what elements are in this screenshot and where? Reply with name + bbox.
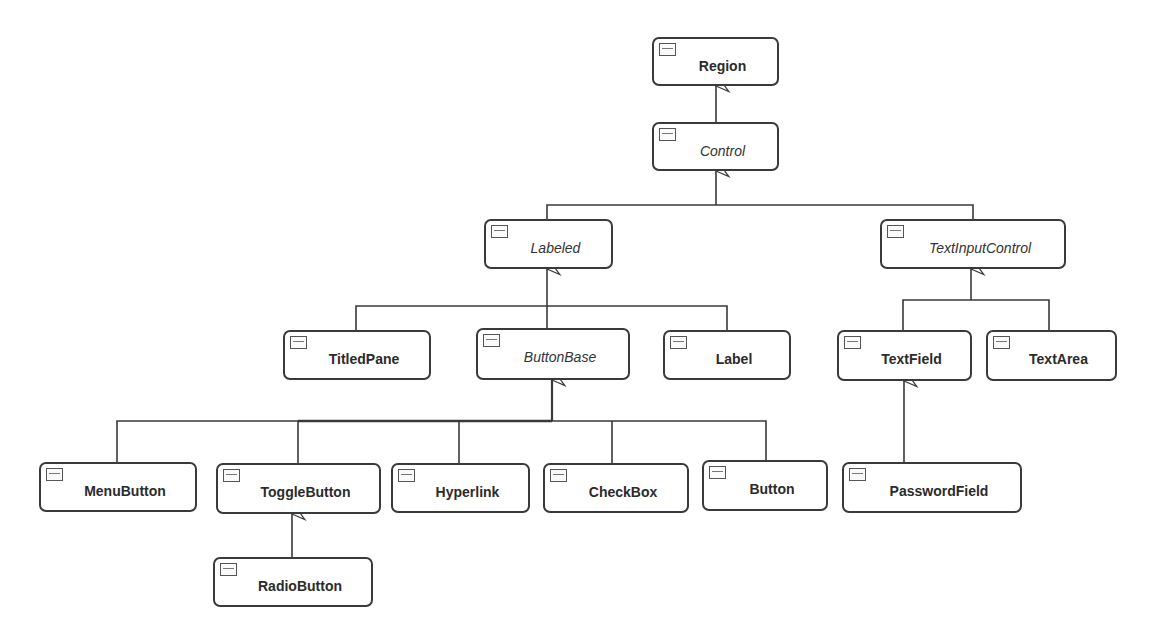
class-hierarchy-diagram: Region Control Labeled TextInputControl … <box>0 0 1152 643</box>
class-labeled[interactable]: Labeled <box>484 219 613 269</box>
class-titledpane[interactable]: TitledPane <box>283 330 431 380</box>
class-name: Region <box>654 58 777 74</box>
class-name: Label <box>665 351 789 367</box>
inheritance-connectors <box>0 0 1152 643</box>
class-name: TextField <box>839 351 970 367</box>
class-name: CheckBox <box>545 484 687 500</box>
class-checkbox[interactable]: CheckBox <box>543 463 689 513</box>
class-name: ButtonBase <box>478 349 628 365</box>
edge-labeled-control <box>547 205 716 219</box>
edge-textinputcontrol-control <box>716 205 973 219</box>
class-togglebutton[interactable]: ToggleButton <box>216 463 381 514</box>
class-radiobutton[interactable]: RadioButton <box>213 557 373 607</box>
class-control[interactable]: Control <box>652 122 779 171</box>
class-icon <box>46 468 63 481</box>
class-textinputcontrol[interactable]: TextInputControl <box>880 219 1066 269</box>
class-icon <box>844 336 861 349</box>
class-name: TextArea <box>988 351 1115 367</box>
class-icon <box>993 336 1010 349</box>
edge-buttonbase-children <box>117 421 766 462</box>
class-icon <box>290 336 307 349</box>
class-label[interactable]: Label <box>663 330 791 380</box>
class-name: PasswordField <box>844 483 1020 499</box>
class-region[interactable]: Region <box>652 37 779 86</box>
class-icon <box>659 128 676 141</box>
class-icon <box>483 334 500 347</box>
class-button[interactable]: Button <box>702 460 828 511</box>
class-icon <box>491 225 508 238</box>
class-icon <box>220 563 237 576</box>
class-icon <box>887 225 904 238</box>
class-name: TitledPane <box>285 351 429 367</box>
class-textarea[interactable]: TextArea <box>986 330 1117 381</box>
class-icon <box>550 469 567 482</box>
class-name: Labeled <box>486 240 611 256</box>
class-buttonbase[interactable]: ButtonBase <box>476 328 630 380</box>
class-icon <box>398 469 415 482</box>
class-textfield[interactable]: TextField <box>837 330 972 381</box>
class-icon <box>670 336 687 349</box>
class-icon <box>223 469 240 482</box>
class-icon <box>709 466 726 479</box>
class-icon <box>659 43 676 56</box>
class-name: Control <box>654 143 777 159</box>
class-name: MenuButton <box>41 483 195 499</box>
class-name: TextInputControl <box>882 240 1064 256</box>
class-name: Button <box>704 481 826 497</box>
class-name: ToggleButton <box>218 484 379 500</box>
class-name: RadioButton <box>215 578 371 594</box>
class-name: Hyperlink <box>393 484 528 500</box>
class-icon <box>849 468 866 481</box>
edge-textfield-tic <box>903 300 1049 330</box>
class-hyperlink[interactable]: Hyperlink <box>391 463 530 513</box>
edge-titledpane-labeled <box>356 306 727 330</box>
class-menubutton[interactable]: MenuButton <box>39 462 197 512</box>
class-passwordfield[interactable]: PasswordField <box>842 462 1022 513</box>
